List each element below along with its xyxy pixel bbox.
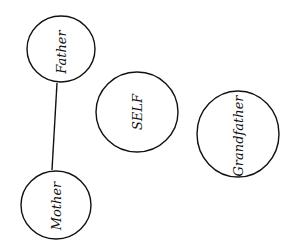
edge-father-mother	[52, 83, 57, 170]
grandfather-label: Grandfather	[231, 95, 246, 177]
family-diagram: Father SELF Grandfather Mother	[0, 0, 296, 242]
node-grandfather: Grandfather	[197, 91, 279, 177]
node-self: SELF	[96, 72, 178, 152]
mother-label: Mother	[49, 181, 64, 231]
self-label: SELF	[130, 93, 145, 130]
node-father: Father	[27, 16, 95, 82]
father-label: Father	[54, 30, 69, 75]
node-mother: Mother	[21, 171, 91, 239]
